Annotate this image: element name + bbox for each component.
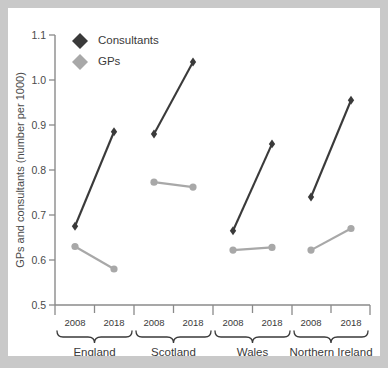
chart-legend: Consultants GPs (72, 33, 159, 70)
legend-label: Consultants (98, 34, 159, 46)
x-tick-label-year: 2018 (182, 317, 203, 328)
group-brace (215, 331, 290, 343)
data-point-circle-icon (268, 244, 275, 251)
data-series-layer (71, 58, 354, 273)
x-tick-label-year: 2018 (103, 317, 124, 328)
series-segment (311, 229, 351, 251)
group-brace (136, 331, 211, 343)
line-chart: GPs and consultants (number per 1000) 1.… (8, 8, 380, 356)
legend-label: GPs (98, 55, 121, 67)
data-point-circle-icon (307, 247, 314, 254)
x-year-labels: 2008 2018 2008 2018 2008 2018 2008 2018 (64, 317, 361, 328)
y-tick-group: 1.1 1.0 0.9 0.8 0.7 0.6 0.5 (31, 29, 55, 311)
y-tick-label: 0.7 (31, 209, 46, 221)
series-segment (75, 132, 114, 227)
chart-figure: GPs and consultants (number per 1000) 1.… (0, 0, 388, 368)
series-segment (233, 247, 272, 250)
y-tick-label: 0.9 (31, 119, 46, 131)
x-tick-label-year: 2008 (300, 317, 321, 328)
series-segment (311, 100, 351, 197)
y-tick-label: 0.8 (31, 164, 46, 176)
group-brace (57, 331, 132, 343)
x-tick-label-year: 2008 (143, 317, 164, 328)
series-segment (75, 247, 114, 270)
group-label: Wales (237, 346, 269, 356)
data-point-circle-icon (347, 225, 354, 232)
legend-marker-diamond-icon (72, 33, 88, 49)
series-segment (154, 182, 193, 187)
legend-marker-diamond-icon (72, 54, 88, 70)
data-point-circle-icon (189, 184, 196, 191)
group-brace-set (57, 331, 368, 343)
series-consultants (72, 58, 354, 236)
y-tick-label: 1.0 (31, 74, 46, 86)
x-tick-label-year: 2008 (222, 317, 243, 328)
series-segment (154, 62, 193, 134)
x-tick-group (55, 305, 370, 315)
legend-item-consultants: Consultants (72, 33, 159, 49)
data-point-circle-icon (229, 247, 236, 254)
data-point-circle-icon (150, 179, 157, 186)
chart-canvas: GPs and consultants (number per 1000) 1.… (8, 8, 380, 356)
y-tick-label: 1.1 (31, 29, 46, 41)
group-label: Scotland (151, 346, 196, 356)
y-axis-title: GPs and consultants (number per 1000) (14, 72, 26, 268)
x-tick-label-year: 2018 (340, 317, 361, 328)
group-label: England (73, 346, 115, 356)
legend-item-gps: GPs (72, 54, 121, 70)
group-label: Northern Ireland (289, 346, 372, 356)
y-tick-label: 0.5 (31, 299, 46, 311)
x-tick-label-year: 2018 (261, 317, 282, 328)
series-segment (233, 144, 272, 231)
data-point-circle-icon (110, 265, 117, 272)
data-point-circle-icon (71, 243, 78, 250)
x-tick-label-year: 2008 (64, 317, 85, 328)
y-tick-label: 0.6 (31, 254, 46, 266)
group-label-set: England Scotland Wales Northern Ireland (73, 346, 372, 356)
group-brace (294, 331, 368, 343)
